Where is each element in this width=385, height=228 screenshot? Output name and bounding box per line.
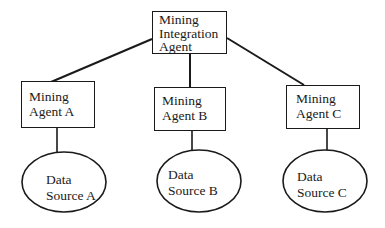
data-source-a-label: Data Source A xyxy=(46,172,96,204)
diagram-canvas: Mining Integration Agent Mining Agent A … xyxy=(0,0,385,228)
node-label-line: Data xyxy=(297,169,347,185)
node-label-line: Source A xyxy=(46,188,96,204)
node-label-line: Source C xyxy=(297,185,347,201)
node-label-line: Agent A xyxy=(29,104,94,119)
mining-agent-c-node: Mining Agent C xyxy=(286,85,360,129)
node-label-line: Data xyxy=(46,172,96,188)
data-source-b-label: Data Source B xyxy=(168,167,218,199)
node-label-line: Mining xyxy=(159,13,226,27)
mining-agent-a-node: Mining Agent A xyxy=(21,81,95,128)
node-label-line: Mining xyxy=(162,93,225,108)
node-label-line: Mining xyxy=(29,89,94,104)
mining-integration-agent-node: Mining Integration Agent xyxy=(152,11,227,54)
node-label-line: Agent B xyxy=(162,108,225,123)
edge-root-to-agent-c xyxy=(227,38,304,85)
node-label-line: Data xyxy=(168,167,218,183)
node-label-line: Integration xyxy=(159,27,226,41)
node-label-line: Agent C xyxy=(296,106,359,121)
node-label-line: Agent xyxy=(159,40,226,54)
edge-root-to-agent-a xyxy=(51,39,152,82)
node-label-line: Source B xyxy=(168,183,218,199)
mining-agent-b-node: Mining Agent B xyxy=(154,87,226,131)
data-source-c-label: Data Source C xyxy=(297,169,347,201)
node-label-line: Mining xyxy=(296,91,359,106)
